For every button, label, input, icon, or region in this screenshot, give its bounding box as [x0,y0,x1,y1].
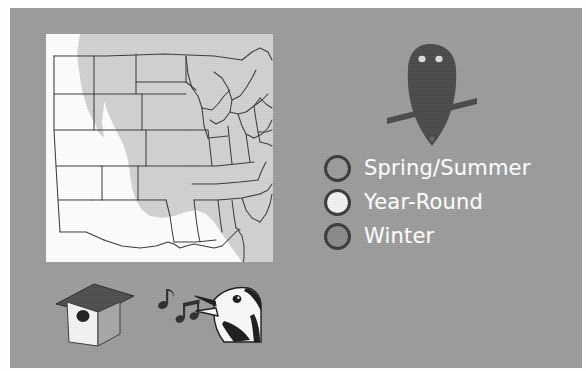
birdhouse-entrance-hole [77,310,90,322]
range-map-panel [46,34,273,262]
birdhouse-illustration [54,280,136,350]
singing-bird-illustration [194,284,262,346]
legend-label-winter: Winter [364,226,434,247]
eighth-note [157,289,174,310]
bird-eye-highlight [237,297,240,299]
legend-swatch-year-round [324,189,351,216]
legend-label-spring-summer: Spring/Summer [364,158,531,179]
bird-eye [233,295,242,303]
legend-label-year-round: Year-Round [364,192,483,213]
screenshot-canvas: Spring/Summer Year-Round Winter [0,0,586,371]
singing-bird-svg [194,284,262,346]
owl-body [408,44,457,146]
range-map-svg [46,34,273,262]
legend-swatch-spring-summer [324,155,351,182]
bird-lower-beak [196,308,218,316]
range-legend: Spring/Summer Year-Round Winter [324,151,574,253]
owl-illustration [385,38,480,153]
owl-tail-mark [430,136,434,141]
legend-item-winter[interactable]: Winter [324,219,574,253]
bird-upper-beak [195,296,216,306]
legend-item-spring-summer[interactable]: Spring/Summer [324,151,574,185]
birdhouse-svg [54,280,136,350]
owl-svg [385,38,480,153]
slide-panel: Spring/Summer Year-Round Winter [10,8,582,368]
legend-item-year-round[interactable]: Year-Round [324,185,574,219]
owl-right-eye [435,56,442,62]
owl-left-eye [418,56,425,62]
legend-swatch-winter [324,223,351,250]
